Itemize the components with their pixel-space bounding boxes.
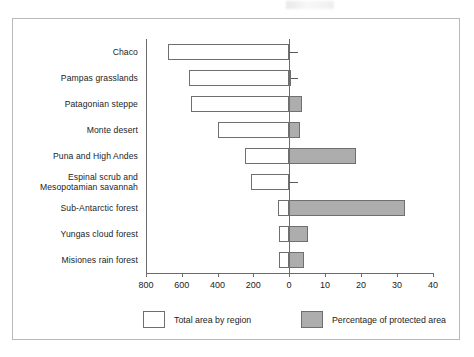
bar-total-area <box>278 200 289 216</box>
bar-percentage-protected <box>289 96 302 112</box>
right-axis-10-tick-label: 10 <box>310 280 340 290</box>
right-axis-40-tick <box>433 273 434 277</box>
category-label: Misiones rain forest <box>0 255 138 265</box>
legend-item: Total area by region <box>143 311 251 328</box>
left-axis-600-tick <box>182 273 183 277</box>
right-axis-20-tick-label: 20 <box>346 280 376 290</box>
bar-percentage-protected <box>289 70 291 86</box>
chart-plot-area: 800600400200010203040ChacoPampas grassla… <box>13 19 461 341</box>
chart-figure-frame: 800600400200010203040ChacoPampas grassla… <box>12 18 460 340</box>
left-axis-200-tick <box>253 273 254 277</box>
bar-percentage-protected <box>289 226 308 242</box>
legend-item: Percentage of protected area <box>301 311 446 328</box>
category-label: Monte desert <box>0 125 138 135</box>
category-label: Patagonian steppe <box>0 99 138 109</box>
category-label: Puna and High Andes <box>0 151 138 161</box>
category-label: Chaco <box>0 47 138 57</box>
left-axis-400-tick <box>218 273 219 277</box>
right-axis-10-tick <box>325 273 326 277</box>
category-label: Sub-Antarctic forest <box>0 203 138 213</box>
left-axis-800-tick <box>146 273 147 277</box>
left-axis-600-tick-label: 600 <box>167 280 197 290</box>
bar-total-area <box>279 252 289 268</box>
right-axis-30-tick <box>397 273 398 277</box>
bar-total-area <box>245 148 289 164</box>
left-axis-0-tick <box>289 273 290 277</box>
left-axis-spine <box>146 39 147 273</box>
category-label: Espinal scrub and Mesopotamian savannah <box>0 172 138 192</box>
category-label: Pampas grasslands <box>0 73 138 83</box>
bar-total-area <box>189 70 289 86</box>
left-axis-200-tick-label: 200 <box>238 280 268 290</box>
left-axis-0-tick-label: 0 <box>274 280 304 290</box>
bar-percentage-protected <box>289 252 304 268</box>
bar-percentage-protected <box>289 148 356 164</box>
bar-percentage-protected <box>289 200 405 216</box>
bar-total-area <box>168 44 289 60</box>
scan-artifact <box>286 1 334 9</box>
left-axis-400-tick-label: 400 <box>203 280 233 290</box>
right-axis-30-tick-label: 30 <box>382 280 412 290</box>
left-axis-800-tick-label: 800 <box>131 280 161 290</box>
legend-label: Percentage of protected area <box>332 315 446 325</box>
right-axis-40-tick-label: 40 <box>418 280 448 290</box>
right-axis-20-tick <box>361 273 362 277</box>
chart-legend: Total area by regionPercentage of protec… <box>13 305 461 335</box>
bar-percentage-protected <box>289 122 300 138</box>
legend-swatch-total-area <box>143 311 165 328</box>
legend-swatch-percentage <box>301 311 323 328</box>
bar-total-area <box>279 226 289 242</box>
bar-total-area <box>218 122 289 138</box>
category-label: Yungas cloud forest <box>0 229 138 239</box>
bar-total-area <box>191 96 289 112</box>
bar-total-area <box>251 174 289 190</box>
legend-label: Total area by region <box>174 315 251 325</box>
